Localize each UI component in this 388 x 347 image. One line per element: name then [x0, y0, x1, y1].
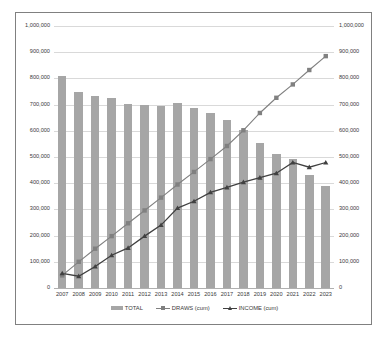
y-tick-right-0: 0: [339, 285, 342, 291]
y-tick-right-1000000: 1,000,000: [339, 23, 364, 29]
x-tick-2020: 2020: [268, 292, 284, 298]
bar-2015: [190, 108, 199, 288]
bar-2022: [305, 175, 314, 288]
x-tick-2019: 2019: [252, 292, 268, 298]
legend-item-draws-cum[interactable]: DRAWS (cum): [156, 305, 210, 311]
y-tick-left-300000: 300,000: [16, 206, 50, 212]
marker-draws-cum--2023: [324, 54, 328, 58]
x-tick-2008: 2008: [70, 292, 86, 298]
bar-2014: [173, 103, 182, 288]
y-tick-right-900000: 900,000: [339, 49, 359, 55]
y-tick-left-200000: 200,000: [16, 233, 50, 239]
y-tick-right-100000: 100,000: [339, 259, 359, 265]
y-tick-left-600000: 600,000: [16, 128, 50, 134]
x-tick-2013: 2013: [153, 292, 169, 298]
x-tick-2011: 2011: [120, 292, 136, 298]
y-tick-left-800000: 800,000: [16, 75, 50, 81]
y-tick-right-700000: 700,000: [339, 102, 359, 108]
y-tick-right-800000: 800,000: [339, 75, 359, 81]
legend-triangle-marker-icon: [228, 306, 232, 310]
gridline: [54, 78, 334, 79]
x-tick-2015: 2015: [186, 292, 202, 298]
y-tick-left-700000: 700,000: [16, 102, 50, 108]
bar-2021: [289, 159, 298, 288]
legend-label: INCOME (cum): [239, 305, 279, 311]
bar-2008: [74, 92, 83, 288]
y-tick-left-0: 0: [16, 285, 50, 291]
bar-2017: [223, 120, 232, 288]
legend-square-marker-icon: [161, 306, 165, 310]
x-tick-2009: 2009: [87, 292, 103, 298]
axis-baseline: [54, 288, 334, 289]
bar-2012: [140, 105, 149, 288]
y-tick-right-300000: 300,000: [339, 206, 359, 212]
marker-draws-cum--2020: [274, 96, 278, 100]
bar-2011: [124, 104, 133, 288]
x-tick-2018: 2018: [235, 292, 251, 298]
marker-income-cum--2023: [323, 160, 328, 165]
chart-frame: 1,000,000900,000800,000700,000600,000500…: [15, 12, 372, 325]
bar-2023: [321, 186, 330, 288]
y-tick-right-600000: 600,000: [339, 128, 359, 134]
legend-swatch-line-icon: [156, 305, 170, 311]
bar-2013: [157, 106, 166, 288]
gridline: [54, 52, 334, 53]
marker-draws-cum--2019: [258, 111, 262, 115]
legend-item-total[interactable]: TOTAL: [111, 305, 143, 311]
x-tick-2021: 2021: [285, 292, 301, 298]
bar-2020: [272, 154, 281, 288]
legend-swatch-line-icon: [223, 305, 237, 311]
marker-income-cum--2022: [307, 165, 312, 170]
y-tick-right-500000: 500,000: [339, 154, 359, 160]
y-tick-left-400000: 400,000: [16, 180, 50, 186]
y-tick-right-400000: 400,000: [339, 180, 359, 186]
marker-draws-cum--2022: [307, 68, 311, 72]
bar-2007: [58, 76, 67, 288]
x-tick-2016: 2016: [202, 292, 218, 298]
x-tick-2017: 2017: [219, 292, 235, 298]
bar-2009: [91, 96, 100, 288]
y-tick-left-1000000: 1,000,000: [16, 23, 50, 29]
x-tick-2012: 2012: [136, 292, 152, 298]
y-tick-left-900000: 900,000: [16, 49, 50, 55]
legend-label: DRAWS (cum): [172, 305, 210, 311]
x-tick-2014: 2014: [169, 292, 185, 298]
legend-label: TOTAL: [125, 305, 143, 311]
marker-draws-cum--2021: [291, 82, 295, 86]
y-tick-right-200000: 200,000: [339, 233, 359, 239]
plot-area: [54, 26, 334, 288]
x-tick-2022: 2022: [301, 292, 317, 298]
x-tick-2007: 2007: [54, 292, 70, 298]
gridline: [54, 26, 334, 27]
bar-2019: [256, 143, 265, 288]
bar-2010: [107, 98, 116, 288]
bar-2016: [206, 113, 215, 288]
chart-legend: TOTALDRAWS (cum)INCOME (cum): [16, 305, 373, 311]
y-tick-left-100000: 100,000: [16, 259, 50, 265]
y-tick-left-500000: 500,000: [16, 154, 50, 160]
x-tick-2023: 2023: [318, 292, 334, 298]
legend-swatch-bar-icon: [111, 306, 123, 310]
bar-2018: [239, 130, 248, 288]
legend-item-income-cum[interactable]: INCOME (cum): [223, 305, 279, 311]
x-tick-2010: 2010: [103, 292, 119, 298]
